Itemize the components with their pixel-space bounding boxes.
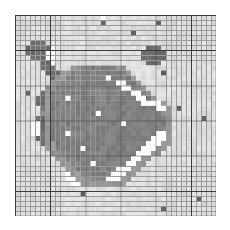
heatmap-figure [0, 0, 230, 230]
heatmap-grid-canvas [15, 15, 216, 216]
heatmap-plot-area [15, 15, 216, 216]
